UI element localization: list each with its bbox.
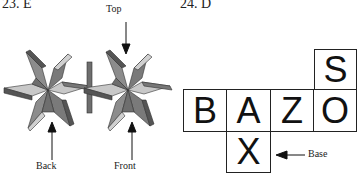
- label-back: Back: [36, 160, 57, 171]
- star-back-view: [4, 50, 92, 131]
- arrow-base-icon: [276, 151, 305, 159]
- net-face-s: S: [314, 49, 357, 90]
- net-face-b: B: [183, 89, 227, 132]
- net-face-o: O: [313, 89, 357, 132]
- net-face-a: A: [226, 89, 271, 132]
- label-base: Base: [308, 148, 327, 159]
- star-front-view: [84, 50, 172, 131]
- problem-24-heading: 24. D: [180, 0, 211, 12]
- net-face-z: Z: [270, 89, 314, 132]
- arrow-top-icon: [122, 22, 130, 54]
- label-front: Front: [114, 160, 136, 171]
- arrow-back-icon: [48, 122, 56, 160]
- net-face-x: X: [226, 131, 271, 173]
- label-top: Top: [106, 3, 121, 14]
- arrow-front-icon: [128, 122, 136, 160]
